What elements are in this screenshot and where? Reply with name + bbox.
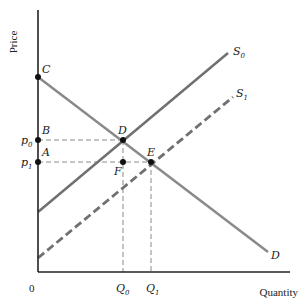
supply-curve-s1 — [38, 97, 233, 258]
label-d-curve: D — [270, 249, 280, 262]
point-e — [148, 159, 154, 165]
y-axis-label: Price — [7, 31, 19, 54]
label-b: B — [41, 124, 50, 137]
point-c — [35, 74, 41, 80]
label-s0: S0 — [233, 45, 246, 60]
label-q0: Q0 — [116, 282, 130, 297]
x-axis-label: Quantity — [260, 286, 299, 298]
label-d-point: D — [117, 124, 127, 137]
point-d — [120, 137, 126, 143]
label-e: E — [146, 146, 155, 159]
label-s1: S1 — [236, 87, 248, 102]
point-b — [35, 137, 41, 143]
label-f: F — [113, 165, 122, 178]
point-a — [35, 159, 41, 165]
label-a: A — [41, 146, 50, 159]
supply-curve-s0 — [38, 53, 228, 212]
supply-demand-diagram: Price Quantity 0 C B A D F E p0 p1 Q0 Q1… — [0, 0, 300, 306]
label-q1: Q1 — [146, 282, 160, 297]
origin-label: 0 — [29, 282, 35, 294]
label-c: C — [42, 63, 51, 76]
label-p1: p1 — [21, 156, 33, 171]
label-p0: p0 — [21, 134, 33, 149]
